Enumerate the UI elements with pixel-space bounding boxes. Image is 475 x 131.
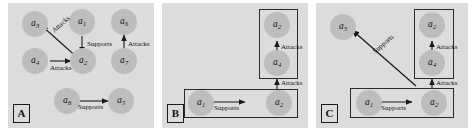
node-a6-base: a	[120, 17, 125, 27]
node-a7[interactable]: a7	[111, 48, 137, 74]
node-c-a2-base: a	[428, 20, 433, 30]
node-a4-sub: 4	[36, 60, 39, 67]
node-c-a5-base: a	[339, 22, 344, 32]
node-a4-base: a	[31, 56, 36, 66]
node-a2-base: a	[79, 56, 84, 66]
node-b-a2-sub: 2	[278, 24, 281, 31]
figure-argumentation-panels: a3 a1 a6 a4 a2 a7 a8 a5 Attacks Supports…	[0, 0, 475, 131]
node-b-a2b-base: a	[275, 98, 280, 108]
node-c-a4-base: a	[428, 58, 433, 68]
edge-label-b-a1-supports-a2: Supports	[214, 105, 239, 112]
node-c-a5-sub: 5	[344, 26, 347, 33]
node-c-a4-sub: 4	[433, 62, 436, 69]
edge-label-c-box-attacks-box: Attacks	[436, 80, 457, 87]
panel-label-a: A	[13, 104, 30, 123]
node-b-a1-base: a	[197, 98, 202, 108]
node-a5[interactable]: a5	[108, 88, 134, 114]
node-b-a2[interactable]: a2	[264, 12, 290, 38]
node-a7-sub: 7	[125, 60, 128, 67]
node-a1[interactable]: a1	[69, 9, 95, 35]
node-b-a1[interactable]: a1	[188, 90, 214, 116]
edge-label-b-box-attacks-box: Attacks	[281, 80, 302, 87]
node-b-a4-sub: 4	[278, 62, 281, 69]
node-a5-base: a	[117, 96, 122, 106]
node-a8-base: a	[63, 96, 68, 106]
node-b-a2b-sub: 2	[280, 102, 283, 109]
node-c-a1-base: a	[365, 98, 370, 108]
node-a8[interactable]: a8	[54, 88, 80, 114]
node-c-a2-sub: 2	[433, 24, 436, 31]
node-a6-sub: 6	[125, 21, 128, 28]
edge-label-c-a4-attacks-a2: Attacks	[436, 44, 457, 51]
node-c-a5[interactable]: a5	[330, 14, 356, 40]
node-c-a2b-base: a	[430, 98, 435, 108]
node-a2-sub: 2	[84, 60, 87, 67]
edge-label-a1-supports-a2: Supports	[87, 41, 112, 48]
panel-label-c: C	[321, 104, 338, 123]
node-a6[interactable]: a6	[111, 9, 137, 35]
edge-label-c-box-supports-a5: Supports	[372, 34, 395, 56]
node-a1-base: a	[78, 17, 83, 27]
node-a7-base: a	[120, 56, 125, 66]
node-a5-sub: 5	[122, 100, 125, 107]
node-a3[interactable]: a3	[22, 11, 48, 37]
node-a4[interactable]: a4	[22, 48, 48, 74]
node-b-a1-sub: 1	[202, 102, 205, 109]
edge-label-a8-supports-a5: Supports	[78, 104, 103, 111]
edge-label-a7-attacks-a6: Attacks	[128, 41, 149, 48]
edge-label-c-a1-supports-a2: Supports	[381, 105, 406, 112]
node-c-a2b-sub: 2	[435, 102, 438, 109]
node-a1-sub: 1	[83, 21, 86, 28]
node-a3-sub: 3	[36, 23, 39, 30]
node-a2[interactable]: a2	[70, 48, 96, 74]
node-c-a2-bottom[interactable]: a2	[421, 90, 447, 116]
node-c-a4[interactable]: a4	[419, 50, 445, 76]
edge-label-b-a4-attacks-a2: Attacks	[281, 44, 302, 51]
node-b-a2-bottom[interactable]: a2	[266, 90, 292, 116]
node-a8-sub: 8	[68, 100, 71, 107]
node-b-a2-base: a	[273, 20, 278, 30]
node-c-a1-sub: 1	[370, 102, 373, 109]
panel-a: a3 a1 a6 a4 a2 a7 a8 a5 Attacks Supports…	[8, 3, 154, 128]
panel-b: a2 a4 a1 a2 Attacks Supports Attacks B	[162, 3, 308, 128]
node-c-a1[interactable]: a1	[356, 90, 382, 116]
panel-label-b: B	[167, 104, 184, 123]
node-c-a2[interactable]: a2	[419, 12, 445, 38]
edge-label-a4-attacks-a2: Attacks	[50, 65, 71, 72]
panel-c: a5 a2 a4 a1 a2 Attacks Supports Attacks …	[316, 3, 468, 128]
node-b-a4-base: a	[273, 58, 278, 68]
node-b-a4[interactable]: a4	[264, 50, 290, 76]
